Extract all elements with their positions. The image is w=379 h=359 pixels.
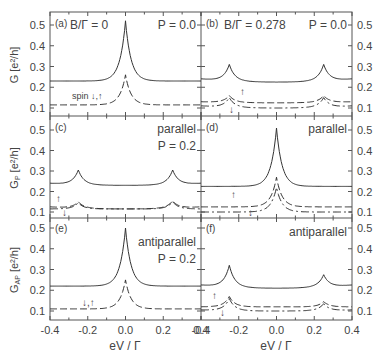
svg-text:0.4: 0.4	[357, 40, 372, 52]
panel-d-tag: (d)	[206, 122, 218, 133]
svg-text:-0.4: -0.4	[192, 324, 211, 336]
panel-d-up: ↑	[231, 189, 236, 200]
svg-text:0.1: 0.1	[30, 206, 45, 218]
svg-text:0.2: 0.2	[30, 284, 45, 296]
svg-text:0.0: 0.0	[118, 324, 133, 336]
svg-text:0.1: 0.1	[30, 305, 45, 317]
panel-f-tag: (f)	[206, 223, 215, 234]
svg-text:0.3: 0.3	[30, 264, 45, 276]
curve-f-dashed	[201, 297, 352, 307]
svg-text:0.1: 0.1	[30, 102, 45, 114]
curve-d-dash-dot	[201, 187, 352, 212]
curve-b-solid	[201, 64, 352, 82]
svg-text:0.2: 0.2	[156, 324, 171, 336]
x-axis-label-right: eV / Γ	[260, 339, 292, 353]
y-axis-label-row3: GAP [e²/h]	[8, 247, 21, 293]
svg-text:0.1: 0.1	[357, 102, 372, 114]
svg-text:0.4: 0.4	[30, 145, 45, 157]
svg-text:0.4: 0.4	[344, 324, 359, 336]
panel-d-parallel: parallel	[308, 122, 347, 136]
svg-text:0.5: 0.5	[357, 222, 372, 234]
svg-text:0.3: 0.3	[357, 165, 372, 177]
curve-e-dashed	[50, 280, 201, 309]
panel-a-p: P = 0.0	[158, 18, 196, 32]
panel-a-title: B/Γ = 0	[70, 18, 109, 32]
svg-text:-0.2: -0.2	[78, 324, 97, 336]
svg-text:-0.4: -0.4	[41, 324, 60, 336]
panel-frames	[50, 12, 352, 320]
panel-b-up: ↑	[240, 86, 245, 97]
svg-text:0.4: 0.4	[30, 40, 45, 52]
panel-c-parallel: parallel	[157, 122, 196, 136]
panel-b-down: ↓	[229, 104, 234, 115]
panel-d-down: ↓	[248, 207, 253, 218]
svg-text:0.3: 0.3	[30, 61, 45, 73]
svg-text:0.3: 0.3	[357, 264, 372, 276]
y-axis-label-row2: GP [e²/h]	[8, 147, 21, 188]
svg-text:0.2: 0.2	[357, 186, 372, 198]
curve-d-dashed	[201, 177, 352, 207]
svg-text:0.1: 0.1	[357, 305, 372, 317]
panel-a-spin-label: spin ↓,↑	[72, 91, 103, 101]
panel-f-antiparallel: antiparallel	[289, 225, 347, 239]
svg-text:0.3: 0.3	[357, 61, 372, 73]
panel-e-antiparallel: antiparallel	[138, 235, 196, 249]
svg-text:0.4: 0.4	[357, 243, 372, 255]
svg-text:0.0: 0.0	[269, 324, 284, 336]
y-axis-label-row1: G [e²/h]	[8, 47, 20, 84]
svg-text:0.2: 0.2	[307, 324, 322, 336]
svg-text:0.4: 0.4	[30, 243, 45, 255]
svg-text:0.2: 0.2	[30, 81, 45, 93]
curve-c-solid	[50, 170, 201, 185]
panel-e-p: P = 0.2	[158, 252, 196, 266]
svg-text:0.5: 0.5	[30, 124, 45, 136]
curve-c-dashed	[50, 201, 201, 209]
svg-text:-0.2: -0.2	[229, 324, 248, 336]
panel-e-tag: (e)	[55, 223, 67, 234]
svg-text:0.1: 0.1	[357, 206, 372, 218]
curve-b-dash-dot	[201, 98, 352, 108]
panel-c-tag: (c)	[55, 122, 67, 133]
panel-c-down: ↓	[62, 207, 67, 218]
curve-b-dashed	[201, 96, 352, 103]
svg-text:0.5: 0.5	[30, 222, 45, 234]
svg-text:0.4: 0.4	[357, 145, 372, 157]
panel-f-down: ↓	[220, 307, 225, 318]
panel-e-spin-label: ↓,↑	[82, 297, 95, 308]
panel-b-p: P = 0.0	[309, 18, 347, 32]
svg-text:0.2: 0.2	[357, 284, 372, 296]
panel-a-tag: (a)	[55, 18, 67, 29]
svg-text:0.5: 0.5	[357, 19, 372, 31]
panel-b-tag: (b)	[206, 18, 218, 29]
curve-f-solid	[201, 265, 352, 288]
svg-text:0.5: 0.5	[357, 124, 372, 136]
panel-c-up: ↑	[56, 193, 61, 204]
x-axis-label-left: eV / Γ	[109, 339, 141, 353]
panel-c-p: P = 0.2	[158, 139, 196, 153]
svg-text:0.3: 0.3	[30, 165, 45, 177]
figure: 0.10.10.20.20.30.30.40.40.50.50.10.10.20…	[0, 0, 379, 359]
svg-text:0.5: 0.5	[30, 19, 45, 31]
svg-text:0.2: 0.2	[30, 186, 45, 198]
panel-b-title: B/Γ = 0.278	[224, 18, 286, 32]
svg-text:0.2: 0.2	[357, 81, 372, 93]
panel-f-up: ↑	[212, 290, 217, 301]
